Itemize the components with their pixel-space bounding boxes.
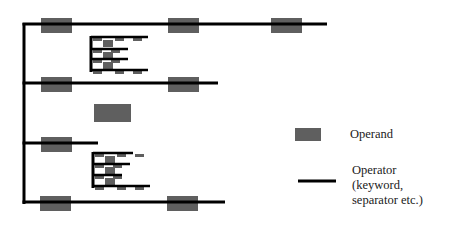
nested-operand-dash [95,154,104,157]
nested-operand-box [103,40,113,47]
nested-operand-box [105,167,115,174]
nested-operand-dash [135,187,144,190]
nested-operand-dash [93,38,102,41]
nested-operand-dash [115,38,124,41]
legend-operator-label: Operator (keyword, separator etc.) [352,163,423,208]
nested-operand-box [105,156,115,163]
nested-operand-dash [117,187,126,190]
nested-operand-dash [95,165,104,168]
nested-operand-dash [93,60,102,63]
legend-operand-swatch [295,128,321,141]
nested-operand-dash [95,176,104,179]
legend-operator-line-3: separator etc.) [352,193,423,208]
nested-operand-dash [133,38,142,41]
legend-operator-line-2: (keyword, [352,178,423,193]
nested-operand-dash [93,71,102,74]
nested-operand-box [103,62,113,69]
nested-operand-box [105,178,115,185]
nested-operand-dash [115,71,124,74]
legend-operator-line-1: Operator [352,163,423,178]
nested-operand-dash [117,154,126,157]
nested-operand-dash [133,71,142,74]
standalone-operand-box [94,104,131,122]
nested-operand-dash [95,187,104,190]
legend-operand-label: Operand [350,127,393,142]
nested-operand-dash [135,154,144,157]
nested-operand-dash [93,50,102,53]
